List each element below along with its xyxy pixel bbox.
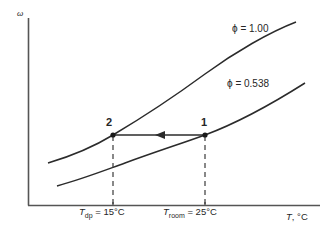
tick-label-room: Troom = 25°C (163, 207, 217, 219)
y-axis-label: ω (17, 10, 23, 18)
tick-label-room-subscript: room (169, 212, 185, 219)
tick-label-room-equals: = (185, 206, 196, 217)
state-point-1-marker (202, 132, 207, 137)
tick-label-dew-point-value: 15°C (103, 206, 124, 217)
state-label-2: 2 (106, 117, 112, 128)
saturation-curve (48, 22, 296, 163)
process-arrowhead-icon (155, 131, 165, 139)
curve-label-saturation-value: = 1.00 (238, 23, 269, 34)
x-axis-label-units: , °C (292, 211, 308, 222)
psychrometric-chart-figure: ω T, °C ϕ = 1.00 ϕ = 0.538 Tdp = 15°C Tr… (0, 0, 330, 236)
curve-label-relative-humidity-value: = 0.538 (233, 78, 269, 89)
x-axis-label: T, °C (286, 212, 308, 222)
curve-label-saturation: ϕ = 1.00 (232, 24, 268, 34)
tick-label-dew-point-equals: = (93, 206, 104, 217)
tick-label-dew-point-subscript: dp (85, 212, 93, 219)
state-label-1: 1 (201, 117, 207, 128)
chart-canvas (0, 0, 330, 236)
tick-label-dew-point: Tdp = 15°C (79, 207, 125, 219)
tick-label-room-value: 25°C (196, 206, 217, 217)
curve-label-relative-humidity: ϕ = 0.538 (227, 79, 269, 89)
state-point-2-marker (110, 132, 115, 137)
